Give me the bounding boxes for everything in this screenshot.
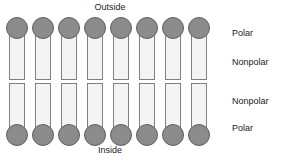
lipid-molecule — [6, 82, 32, 146]
lipid-molecule — [6, 17, 32, 81]
lipid-molecule — [110, 17, 136, 81]
lipid-polar-head — [58, 17, 80, 39]
lipid-polar-head — [188, 124, 210, 146]
lipid-molecule — [136, 82, 162, 146]
lipid-polar-head — [136, 17, 158, 39]
lipid-polar-head — [162, 124, 184, 146]
nonpolar-bottom-label: Nonpolar — [232, 96, 269, 107]
lipid-polar-head — [58, 124, 80, 146]
lipid-polar-head — [84, 17, 106, 39]
lipid-polar-head — [6, 124, 28, 146]
lipid-polar-head — [110, 124, 132, 146]
bilayer-graphic — [0, 0, 285, 162]
outer-leaflet — [0, 17, 232, 81]
lipid-polar-head — [162, 17, 184, 39]
lipid-polar-head — [188, 17, 210, 39]
phospholipid-bilayer-diagram: Outside Polar Nonpolar Nonpolar Polar In… — [0, 0, 285, 162]
lipid-molecule — [84, 82, 110, 146]
lipid-molecule — [58, 82, 84, 146]
lipid-molecule — [162, 17, 188, 81]
lipid-polar-head — [84, 124, 106, 146]
lipid-molecule — [58, 17, 84, 81]
lipid-molecule — [32, 17, 58, 81]
lipid-molecule — [188, 17, 214, 81]
lipid-molecule — [188, 82, 214, 146]
lipid-polar-head — [32, 17, 54, 39]
inner-leaflet — [0, 82, 232, 146]
lipid-molecule — [84, 17, 110, 81]
lipid-molecule — [162, 82, 188, 146]
polar-top-label: Polar — [232, 28, 253, 39]
inside-label: Inside — [0, 145, 220, 156]
lipid-molecule — [32, 82, 58, 146]
lipid-molecule — [110, 82, 136, 146]
lipid-polar-head — [136, 124, 158, 146]
lipid-polar-head — [110, 17, 132, 39]
lipid-molecule — [136, 17, 162, 81]
lipid-polar-head — [6, 17, 28, 39]
polar-bottom-label: Polar — [232, 123, 253, 134]
nonpolar-top-label: Nonpolar — [232, 57, 269, 68]
lipid-polar-head — [32, 124, 54, 146]
